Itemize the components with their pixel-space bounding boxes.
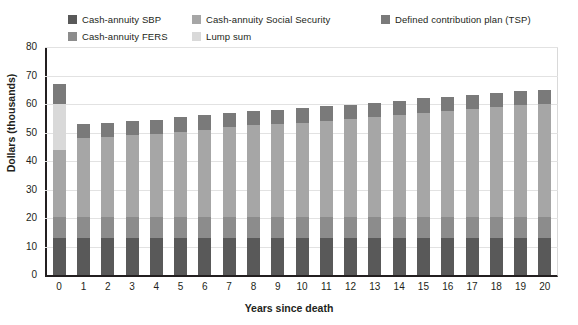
bar-stack[interactable] xyxy=(466,95,479,275)
bar-stack[interactable] xyxy=(150,120,163,275)
bar-segment[interactable] xyxy=(223,217,236,238)
bar-segment[interactable] xyxy=(126,135,139,216)
bar-stack[interactable] xyxy=(126,121,139,275)
bar-segment[interactable] xyxy=(126,121,139,135)
bar-segment[interactable] xyxy=(296,123,309,217)
bar-stack[interactable] xyxy=(320,106,333,275)
bar-segment[interactable] xyxy=(393,101,406,115)
bar-segment[interactable] xyxy=(150,217,163,238)
bar-segment[interactable] xyxy=(77,138,90,216)
bar-segment[interactable] xyxy=(490,238,503,275)
bar-segment[interactable] xyxy=(101,137,114,217)
bar-segment[interactable] xyxy=(247,238,260,275)
bar-segment[interactable] xyxy=(538,217,551,238)
bar-segment[interactable] xyxy=(368,117,381,217)
bar-segment[interactable] xyxy=(320,238,333,275)
bar-stack[interactable] xyxy=(490,93,503,275)
bar-segment[interactable] xyxy=(417,238,430,275)
bar-segment[interactable] xyxy=(514,238,527,275)
bar-segment[interactable] xyxy=(538,104,551,217)
bar-segment[interactable] xyxy=(514,217,527,238)
bar-segment[interactable] xyxy=(296,108,309,122)
bar-segment[interactable] xyxy=(247,111,260,125)
bar-segment[interactable] xyxy=(320,121,333,217)
bar-stack[interactable] xyxy=(247,111,260,275)
bar-segment[interactable] xyxy=(296,238,309,275)
bar-segment[interactable] xyxy=(247,217,260,238)
bar-segment[interactable] xyxy=(174,238,187,275)
bar-segment[interactable] xyxy=(174,217,187,238)
bar-segment[interactable] xyxy=(53,238,66,275)
bar-segment[interactable] xyxy=(53,150,66,217)
bar-segment[interactable] xyxy=(150,238,163,275)
bar-segment[interactable] xyxy=(368,103,381,117)
bar-segment[interactable] xyxy=(271,238,284,275)
bar-segment[interactable] xyxy=(490,93,503,107)
bar-segment[interactable] xyxy=(514,91,527,105)
bar-stack[interactable] xyxy=(53,84,66,275)
bar-segment[interactable] xyxy=(126,217,139,238)
bar-segment[interactable] xyxy=(150,134,163,217)
bar-segment[interactable] xyxy=(344,217,357,238)
bar-segment[interactable] xyxy=(466,95,479,109)
bar-segment[interactable] xyxy=(77,124,90,138)
bar-segment[interactable] xyxy=(53,104,66,150)
bar-segment[interactable] xyxy=(53,84,66,104)
bar-segment[interactable] xyxy=(77,238,90,275)
bar-segment[interactable] xyxy=(466,217,479,238)
bar-segment[interactable] xyxy=(101,238,114,275)
bar-stack[interactable] xyxy=(223,113,236,275)
bar-segment[interactable] xyxy=(417,113,430,217)
bar-segment[interactable] xyxy=(174,117,187,131)
bar-segment[interactable] xyxy=(368,238,381,275)
bar-segment[interactable] xyxy=(417,217,430,238)
bar-segment[interactable] xyxy=(441,111,454,216)
bar-segment[interactable] xyxy=(271,110,284,124)
bar-segment[interactable] xyxy=(368,217,381,238)
bar-segment[interactable] xyxy=(466,238,479,275)
bar-segment[interactable] xyxy=(344,119,357,217)
bar-stack[interactable] xyxy=(417,98,430,275)
bar-segment[interactable] xyxy=(198,238,211,275)
bar-stack[interactable] xyxy=(393,101,406,275)
bar-segment[interactable] xyxy=(417,98,430,112)
bar-segment[interactable] xyxy=(77,217,90,238)
bar-segment[interactable] xyxy=(514,105,527,216)
bar-stack[interactable] xyxy=(441,97,454,275)
bar-segment[interactable] xyxy=(393,217,406,238)
bar-segment[interactable] xyxy=(53,217,66,238)
bar-segment[interactable] xyxy=(344,105,357,119)
bar-segment[interactable] xyxy=(538,90,551,104)
bar-segment[interactable] xyxy=(174,132,187,217)
bar-stack[interactable] xyxy=(296,108,309,275)
bar-segment[interactable] xyxy=(466,109,479,216)
bar-stack[interactable] xyxy=(174,117,187,275)
bar-segment[interactable] xyxy=(198,115,211,129)
bar-segment[interactable] xyxy=(223,127,236,216)
bar-stack[interactable] xyxy=(368,103,381,275)
bar-stack[interactable] xyxy=(538,90,551,275)
bar-segment[interactable] xyxy=(320,106,333,120)
bar-stack[interactable] xyxy=(514,91,527,275)
bar-segment[interactable] xyxy=(441,97,454,111)
bar-segment[interactable] xyxy=(320,217,333,238)
bar-segment[interactable] xyxy=(126,238,139,275)
bar-segment[interactable] xyxy=(296,217,309,238)
bar-segment[interactable] xyxy=(101,123,114,137)
bar-segment[interactable] xyxy=(490,107,503,216)
bar-segment[interactable] xyxy=(393,115,406,216)
bar-segment[interactable] xyxy=(271,124,284,217)
bar-stack[interactable] xyxy=(101,123,114,275)
bar-segment[interactable] xyxy=(198,217,211,238)
bar-segment[interactable] xyxy=(538,238,551,275)
bar-stack[interactable] xyxy=(77,124,90,275)
bar-stack[interactable] xyxy=(344,105,357,275)
bar-segment[interactable] xyxy=(393,238,406,275)
bar-segment[interactable] xyxy=(198,130,211,217)
bar-segment[interactable] xyxy=(441,238,454,275)
bar-segment[interactable] xyxy=(441,217,454,238)
bar-stack[interactable] xyxy=(271,110,284,275)
bar-segment[interactable] xyxy=(344,238,357,275)
bar-segment[interactable] xyxy=(247,125,260,216)
bar-segment[interactable] xyxy=(101,217,114,238)
